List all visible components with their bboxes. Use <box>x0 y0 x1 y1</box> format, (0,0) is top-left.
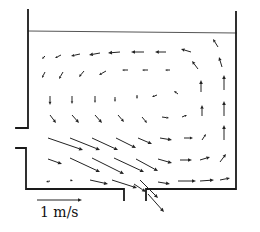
velocity-arrow-icon <box>114 158 144 172</box>
velocity-arrow-icon <box>192 61 198 69</box>
velocity-arrow-icon <box>114 97 116 102</box>
scale-arrow <box>37 198 82 202</box>
velocity-arrow-icon <box>218 57 222 67</box>
velocity-arrow-icon <box>213 39 218 47</box>
velocity-arrow-icon <box>70 179 73 181</box>
tank-velocity-diagram <box>0 0 260 232</box>
wall-segment <box>146 12 236 200</box>
velocity-arrow-icon <box>89 53 100 56</box>
velocity-arrow-icon <box>222 125 226 140</box>
velocity-arrow-icon <box>182 115 187 117</box>
velocity-arrow-icon <box>118 115 124 122</box>
velocity-arrow-icon <box>220 154 226 162</box>
velocity-arrow-icon <box>59 72 63 79</box>
velocity-arrow-icon <box>200 178 214 182</box>
velocity-arrow-icon <box>108 51 120 55</box>
velocity-arrow-icon <box>94 96 96 103</box>
velocity-arrow-icon <box>79 71 84 77</box>
velocity-arrow-icon <box>136 159 158 171</box>
scale-label: 1 m/s <box>40 204 79 220</box>
velocity-arrow-icon <box>49 96 52 105</box>
velocity-arrow-icon <box>46 180 50 182</box>
velocity-arrow-icon <box>48 138 83 150</box>
velocity-arrow-icon <box>90 180 108 185</box>
velocity-arrow-icon <box>99 71 106 75</box>
velocity-arrow-icon <box>42 72 45 78</box>
tank-walls <box>16 10 236 200</box>
velocity-vectors <box>42 39 230 212</box>
velocity-arrow-icon <box>55 55 61 58</box>
scale-arrow-icon <box>37 198 82 202</box>
velocity-arrow-icon <box>42 56 45 59</box>
velocity-arrow-icon <box>162 117 169 119</box>
velocity-arrow-icon <box>152 95 157 97</box>
velocity-arrow-icon <box>142 69 148 71</box>
velocity-arrow-icon <box>174 91 178 94</box>
velocity-arrow-icon <box>95 115 102 123</box>
velocity-arrow-icon <box>116 138 136 148</box>
velocity-arrow-icon <box>222 101 226 116</box>
velocity-arrow-icon <box>122 69 128 71</box>
velocity-arrow-icon <box>50 115 56 123</box>
free-surface-line <box>28 31 237 33</box>
velocity-arrow-icon <box>71 54 80 57</box>
velocity-arrow-icon <box>200 156 210 160</box>
wall-segment <box>16 148 124 200</box>
velocity-arrow-icon <box>184 137 193 140</box>
velocity-arrow-icon <box>165 69 170 71</box>
velocity-arrow-icon <box>180 158 192 162</box>
velocity-arrow-icon <box>178 179 196 183</box>
velocity-arrow-icon <box>138 138 152 144</box>
velocity-arrow-icon <box>136 95 138 99</box>
velocity-arrow-icon <box>71 96 74 104</box>
velocity-arrow-icon <box>220 177 230 180</box>
velocity-arrow-icon <box>72 115 79 123</box>
velocity-arrow-icon <box>202 134 206 140</box>
velocity-arrow-icon <box>158 182 170 186</box>
velocity-arrow-icon <box>131 50 144 54</box>
wall-segment <box>16 10 28 128</box>
velocity-arrow-icon <box>160 138 172 142</box>
velocity-arrow-icon <box>142 117 147 123</box>
velocity-arrow-icon <box>199 80 203 92</box>
velocity-arrow-icon <box>200 105 203 116</box>
velocity-arrow-icon <box>155 50 166 53</box>
velocity-arrow-icon <box>181 48 191 52</box>
velocity-arrow-icon <box>158 159 172 164</box>
velocity-arrow-icon <box>112 180 137 188</box>
velocity-arrow-icon <box>222 75 226 90</box>
velocity-arrow-icon <box>48 159 62 164</box>
